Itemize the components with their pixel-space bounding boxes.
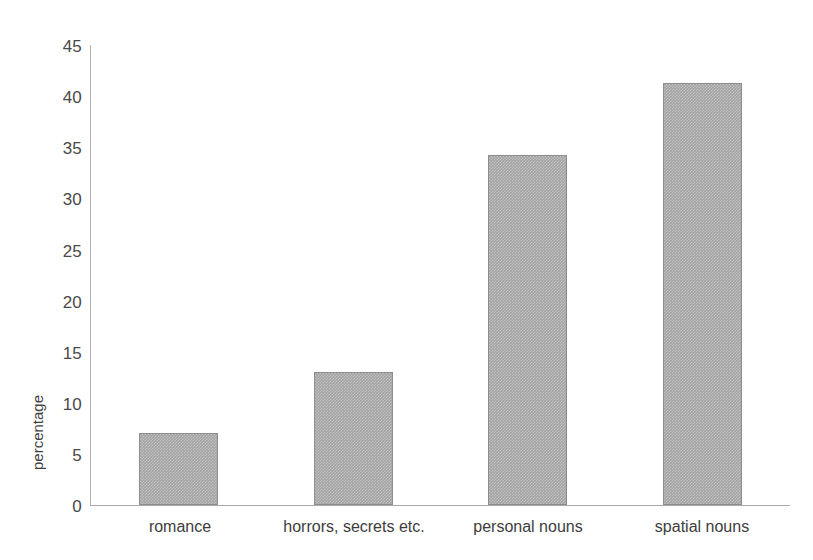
bar-chart: percentage 45 40 35 30 25 20 15 10 5 0 r… xyxy=(0,0,813,560)
y-axis-tick-label: 40 xyxy=(44,89,82,106)
y-axis-tick-label: 10 xyxy=(44,396,82,413)
bar-personal-nouns xyxy=(488,155,567,505)
x-axis-line xyxy=(90,505,790,506)
bar-romance xyxy=(139,433,218,505)
y-axis-tick-label: 25 xyxy=(44,243,82,260)
x-axis-tick-label-personal-nouns: personal nouns xyxy=(473,519,582,535)
bar-spatial-nouns xyxy=(663,83,742,505)
y-axis-tick-label: 15 xyxy=(44,345,82,362)
y-axis-tick-label: 5 xyxy=(44,447,82,464)
y-axis-title: percentage xyxy=(29,383,46,483)
y-axis-tick-label: 30 xyxy=(44,191,82,208)
plot-area xyxy=(91,45,790,505)
bar-horrors-secrets-etc xyxy=(314,372,393,505)
y-axis-tick-label: 45 xyxy=(44,38,82,55)
y-axis-tick-label: 20 xyxy=(44,294,82,311)
y-axis-tick-label: 35 xyxy=(44,140,82,157)
x-axis-tick-label-horrors-secrets-etc: horrors, secrets etc. xyxy=(283,519,424,535)
y-axis-tick-label: 0 xyxy=(44,498,82,515)
x-axis-tick-label-spatial-nouns: spatial nouns xyxy=(655,519,749,535)
x-axis-tick-label-romance: romance xyxy=(149,519,211,535)
